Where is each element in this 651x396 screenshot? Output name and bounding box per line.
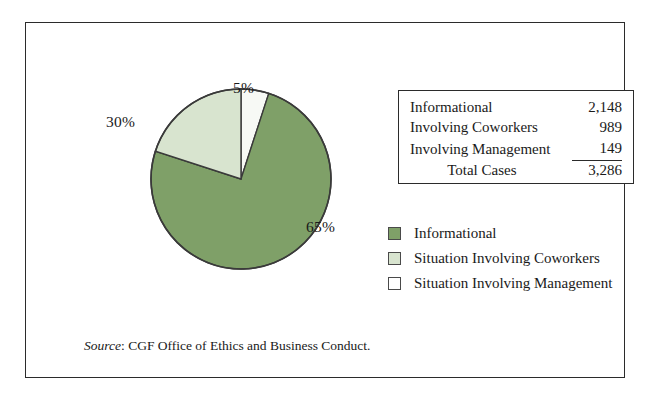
- table-cell-label: Involving Management: [410, 139, 572, 160]
- table-row: Involving Management 149: [410, 139, 622, 160]
- summary-table-box: Informational 2,148 Involving Coworkers …: [398, 90, 634, 184]
- pie-label-management: 5%: [233, 79, 254, 97]
- legend: Informational Situation Involving Cowork…: [388, 221, 612, 296]
- legend-label: Situation Involving Coworkers: [414, 250, 600, 267]
- table-cell-total-value: 3,286: [572, 160, 622, 181]
- table-cell-label: Involving Coworkers: [410, 118, 572, 139]
- table-cell-value: 2,148: [572, 97, 622, 118]
- legend-swatch-icon: [388, 227, 401, 240]
- figure-frame: 65% 30% 5% Informational 2,148 Involving…: [25, 22, 625, 378]
- source-note: Source: CGF Office of Ethics and Busines…: [84, 338, 370, 354]
- table-cell-label: Informational: [410, 97, 572, 118]
- pie-chart: [126, 64, 356, 294]
- legend-item-coworkers: Situation Involving Coworkers: [388, 246, 612, 271]
- source-note-text: : CGF Office of Ethics and Business Cond…: [121, 338, 370, 353]
- table-row: Involving Coworkers 989: [410, 118, 622, 139]
- table-row: Informational 2,148: [410, 97, 622, 118]
- table-cell-total-label: Total Cases: [410, 160, 572, 181]
- legend-swatch-icon: [388, 277, 401, 290]
- table-row-total: Total Cases 3,286: [410, 160, 622, 181]
- legend-swatch-icon: [388, 252, 401, 265]
- legend-item-informational: Informational: [388, 221, 612, 246]
- table-cell-value: 149: [572, 139, 622, 160]
- pie-label-informational: 65%: [306, 218, 335, 236]
- legend-item-management: Situation Involving Management: [388, 271, 612, 296]
- table-cell-value: 989: [572, 118, 622, 139]
- pie-chart-svg: [126, 64, 356, 294]
- summary-table: Informational 2,148 Involving Coworkers …: [410, 97, 622, 182]
- legend-label: Informational: [414, 225, 496, 242]
- legend-label: Situation Involving Management: [414, 275, 612, 292]
- pie-label-coworkers: 30%: [106, 113, 135, 131]
- source-note-label: Source: [84, 338, 121, 353]
